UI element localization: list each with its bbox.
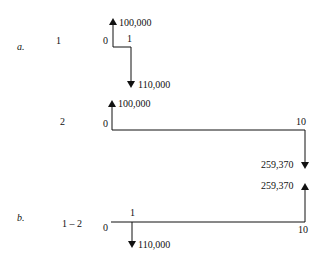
arrow-up-icon bbox=[109, 18, 117, 25]
diagram-2-inflow-amount: 100,000 bbox=[118, 99, 151, 109]
part-label-a: a. bbox=[17, 42, 25, 52]
diagram-3-name: 1 – 2 bbox=[62, 219, 82, 229]
diagram-1-outflow-amount: 110,000 bbox=[138, 80, 170, 90]
arrow-up-icon bbox=[108, 100, 116, 107]
diagram-2-name: 2 bbox=[60, 117, 65, 127]
diagram-1-inflow-amount: 100,000 bbox=[119, 18, 152, 28]
diagram-1-period-end: 1 bbox=[127, 34, 132, 44]
cash-flow-lines bbox=[0, 0, 336, 260]
diagram-2-period-start: 0 bbox=[103, 119, 108, 129]
part-label-b: b. bbox=[17, 213, 25, 223]
diagram-1-name: 1 bbox=[56, 36, 61, 46]
diagram-2-outflow-amount: 259,370 bbox=[261, 160, 294, 170]
arrow-down-icon bbox=[128, 241, 136, 248]
arrow-down-icon bbox=[127, 81, 135, 88]
diagram-3-period-start: 0 bbox=[103, 223, 108, 233]
diagram-3-inflow-amount: 259,370 bbox=[261, 181, 294, 191]
diagram-3-period-mid: 1 bbox=[130, 208, 135, 218]
arrow-up-icon bbox=[301, 183, 309, 190]
arrow-down-icon bbox=[301, 162, 309, 169]
diagram-3-period-end: 10 bbox=[298, 225, 308, 235]
diagram-2-period-end: 10 bbox=[296, 117, 306, 127]
cash-flow-diagrams: a. 1 0 1 100,000 110,000 2 0 10 100,000 … bbox=[0, 0, 336, 260]
diagram-3-outflow-amount: 110,000 bbox=[138, 240, 170, 250]
diagram-1-period-start: 0 bbox=[103, 36, 108, 46]
